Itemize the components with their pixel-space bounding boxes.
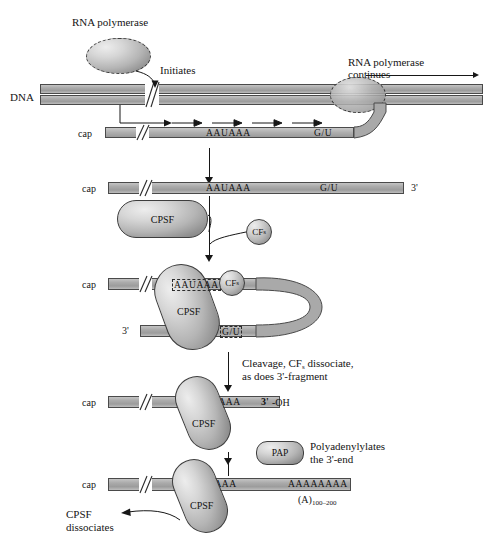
cpsf-label-step2: CPSF [118,201,207,237]
cpsf-dissociates-caption-line1: CPSF [66,508,92,521]
figure-canvas: RNA polymerase Initiates RNA polymerase … [0,0,483,539]
cap-label-step4: cap [82,397,96,409]
dna-label: DNA [10,91,34,104]
cap-label-step2: cap [82,183,96,195]
step2-to-step3-arrowhead [205,255,213,262]
nascent-rna-connector [0,0,483,539]
rna-polymerase-blob [86,38,151,74]
cfs-label-step2: CFs [247,220,271,244]
step4-to-step5-arrowhead [224,458,232,465]
initiates-label: Initiates [160,64,195,77]
step1-to-step2-arrow-line [209,148,210,180]
rna-polymerase-on-dna-blob [330,77,386,113]
cleavage-caption-line2: as does 3'-fragment [242,370,328,383]
elongation-arrows [0,0,483,539]
polya-sequence: AAAAAAAA [288,479,348,489]
cfs-blob-step3: CFs [219,270,245,296]
aauaaa-sequence-step1: AAUAAA [206,128,251,138]
cap-label-step3: cap [82,279,96,291]
pap-blob: PAP [256,441,304,465]
dna-strand-top [40,84,483,94]
dna-break-mask [145,83,159,106]
rna-break-slashes-step3 [0,0,483,539]
pap-label: PAP [257,442,303,464]
rna-break-mask-step2 [139,181,152,196]
polyadenylylates-caption-line1: Polyadenylylates [310,440,385,453]
three-prime-label-step3: 3' [122,325,129,337]
rna-exit-curve [0,0,483,539]
step3-to-step4-arrow-line [228,352,229,388]
three-prime-label-step2: 3' [411,182,418,194]
rna-polymerase-label: RNA polymerase [72,16,148,29]
gu-sequence-step1: G/U [314,128,332,138]
polya-length-annotation: (A)100–200 [298,494,336,507]
transcription-direction-arrowhead [473,72,479,78]
initiation-pointer [0,0,483,539]
cpsf-label-step4: CPSF [192,418,215,430]
cpsf-cfs-leaders-step2 [0,0,483,539]
cpsf-label-step5: CPSF [190,500,213,512]
three-prime-oh-label-step4: -OH [272,397,290,409]
polyadenylylates-caption-line2: the 3'-end [310,453,353,466]
rna-break-mask-step3 [139,277,152,292]
cpsf-label-step3: CPSF [177,306,200,318]
rna-break-mask-step1 [136,126,149,139]
rna-loop-step3 [0,0,483,539]
cpsf-dissociates-caption-line2: dissociates [66,521,114,534]
step3-to-step4-arrowhead [224,385,232,392]
cap-label-step1: cap [78,128,92,140]
rna-break-slashes-step4 [0,0,483,539]
rna-break-slashes-step5 [0,0,483,539]
cap-label-step5: cap [82,479,96,491]
cfs-label-step3: CFs [220,271,244,295]
rna-break-slashes-step1 [0,0,483,539]
step2-to-step3-arrow-line [209,196,210,258]
pre-mrna-strand-step2 [108,182,404,194]
cpsf-dissociates-arrow [0,0,483,539]
cpsf-blob-step5 [165,453,234,539]
rna-polymerase-blob-label [87,39,150,73]
cfs-blob-step2: CFs [246,219,272,245]
gu-sequence-step2: G/U [320,183,338,193]
cpsf-blob-step2: CPSF [117,200,208,238]
dna-break-slashes [0,0,483,539]
three-prime-label-step4: 3' [261,396,269,408]
aauaaa-sequence-step3: AAUAAA [172,279,221,291]
rna-break-mask-step4 [139,395,152,410]
aauaaa-sequence-step2: AAUAAA [206,183,251,193]
rna-break-mask-step5 [139,477,152,493]
transcription-direction-line [366,75,474,76]
gu-sequence-step3: G/U [220,326,242,338]
dna-strand-bottom [40,95,483,105]
rna-break-slashes-step2 [0,0,483,539]
